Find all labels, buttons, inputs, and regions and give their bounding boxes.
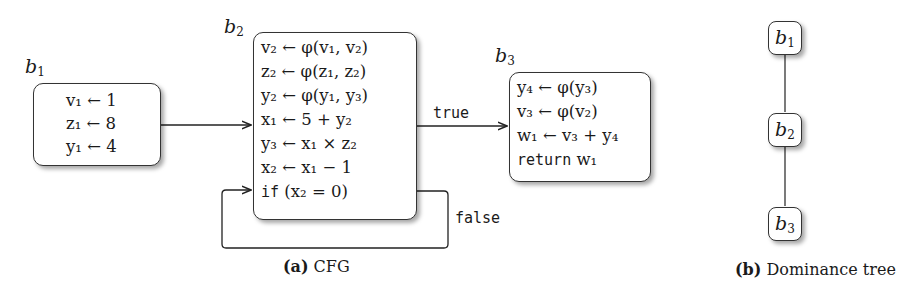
block-label-b1: b1: [25, 55, 45, 79]
stmt: w₁ ← v₃ + y₄: [517, 124, 618, 148]
domtree-node-b2: b2: [768, 113, 802, 147]
block-b2: v₂ ← φ(v₁, v₂) z₂ ← φ(z₁, z₂) y₂ ← φ(y₁,…: [253, 32, 417, 220]
block-label-b2: b2: [224, 15, 244, 39]
stmt: v₃ ← φ(v₂): [517, 100, 598, 124]
edge-label-true: true: [433, 104, 469, 122]
if-keyword: if: [261, 183, 279, 201]
stmt-return: return w₁: [517, 148, 597, 173]
edge-label-false: false: [455, 209, 500, 227]
block-label-b3: b3: [495, 44, 515, 68]
domtree-node-b1: b1: [768, 21, 802, 55]
caption-cfg: (a) CFG: [283, 257, 350, 276]
stmt: y₂ ← φ(y₁, y₃): [261, 84, 368, 108]
stmt: y₄ ← φ(y₃): [517, 76, 598, 100]
stmt: y₁ ← 4: [66, 135, 117, 159]
block-b1: v₁ ← 1 z₁ ← 8 y₁ ← 4: [33, 83, 161, 166]
return-keyword: return: [517, 151, 571, 169]
stmt: x₁ ← 5 + y₂: [261, 108, 352, 132]
caption-dominance-tree: (b) Dominance tree: [735, 260, 896, 279]
domtree-node-b3: b3: [768, 207, 802, 241]
stmt: x₂ ← x₁ − 1: [261, 156, 352, 180]
stmt-branch: if (x₂ = 0): [261, 180, 348, 205]
stmt: z₂ ← φ(z₁, z₂): [261, 60, 366, 84]
stmt: z₁ ← 8: [66, 112, 116, 136]
block-b3: y₄ ← φ(y₃) v₃ ← φ(v₂) w₁ ← v₃ + y₄ retur…: [509, 72, 651, 182]
stmt: y₃ ← x₁ × z₂: [261, 132, 357, 156]
stmt: v₂ ← φ(v₁, v₂): [261, 36, 368, 60]
stmt: v₁ ← 1: [66, 89, 117, 113]
